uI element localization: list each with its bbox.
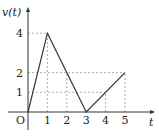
- y-tick-labels: 124: [16, 27, 23, 99]
- origin-label: O: [16, 114, 25, 127]
- y-tick-label: 1: [16, 86, 23, 99]
- x-tick-labels: 12345: [44, 114, 129, 127]
- x-tick-label: 2: [63, 114, 70, 127]
- x-axis-arrow-icon: [150, 110, 155, 114]
- y-tick-label: 2: [16, 67, 23, 80]
- x-axis-label: t: [149, 116, 154, 129]
- y-axis-arrow-icon: [26, 7, 30, 12]
- dashed-guides: [28, 33, 125, 112]
- y-tick-label: 4: [16, 27, 23, 40]
- x-tick-label: 4: [102, 114, 109, 127]
- velocity-chart: v(t) t O 12345 124: [0, 0, 159, 138]
- x-tick-label: 5: [122, 114, 129, 127]
- x-tick-label: 1: [44, 114, 51, 127]
- y-axis-label: v(t): [2, 6, 21, 19]
- x-tick-label: 3: [83, 114, 90, 127]
